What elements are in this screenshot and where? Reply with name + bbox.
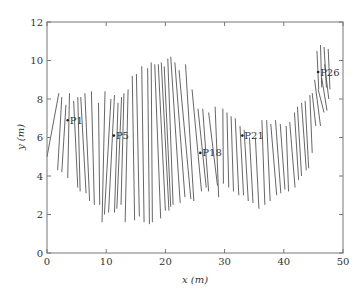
segment <box>315 80 321 126</box>
segment <box>286 126 288 191</box>
point-marker <box>113 134 116 137</box>
segment <box>310 95 312 153</box>
segment <box>148 68 150 224</box>
segment <box>231 116 233 191</box>
segment <box>132 76 134 220</box>
point-label: P18 <box>202 147 221 158</box>
segment <box>267 120 271 201</box>
plot-frame <box>47 22 343 253</box>
point-marker <box>317 71 320 74</box>
segment <box>104 99 111 215</box>
segment <box>318 89 324 112</box>
y-tick-label: 10 <box>30 55 43 66</box>
segment <box>151 62 152 222</box>
segment <box>280 124 285 189</box>
segment <box>102 91 105 222</box>
segment <box>192 89 201 191</box>
segment <box>91 91 94 205</box>
point-label: P26 <box>320 67 339 78</box>
segment <box>99 103 100 205</box>
point-marker <box>66 119 69 122</box>
point-marker <box>241 134 244 137</box>
point-label: P21 <box>244 130 263 141</box>
chart: P1P5P18P21P26 01020304050 024681012 x (m… <box>0 0 363 294</box>
segment <box>276 120 281 193</box>
y-tick-label: 0 <box>37 248 43 259</box>
segment <box>62 105 66 172</box>
point-marker <box>199 152 202 155</box>
segment <box>78 97 80 191</box>
y-tick-label: 12 <box>30 17 43 28</box>
y-tick-label: 8 <box>37 94 43 105</box>
point-label: P5 <box>116 130 129 141</box>
segment <box>136 74 139 216</box>
segment <box>109 95 115 212</box>
segment <box>179 70 191 199</box>
segment <box>223 109 224 184</box>
y-axis-label: y (m) <box>15 124 26 151</box>
x-axis-label: x (m) <box>182 274 208 285</box>
segment <box>125 89 128 222</box>
transect-segments <box>47 45 330 224</box>
x-tick-label: 10 <box>100 256 113 267</box>
x-tick-label: 0 <box>44 256 50 267</box>
y-tick-label: 6 <box>37 132 43 143</box>
segment <box>249 138 253 203</box>
segment <box>68 93 70 178</box>
x-axis: 01020304050 <box>44 22 350 267</box>
segment <box>235 118 239 195</box>
segment <box>255 138 259 209</box>
x-tick-label: 20 <box>159 256 172 267</box>
y-tick-label: 2 <box>37 209 43 220</box>
segment <box>227 112 229 187</box>
segment <box>186 64 194 201</box>
segment <box>290 122 295 187</box>
segment <box>312 93 316 126</box>
segment <box>271 124 277 195</box>
segment <box>58 97 62 170</box>
point-label: P1 <box>70 115 83 126</box>
y-tick-label: 4 <box>37 171 43 182</box>
segment <box>142 66 144 222</box>
x-tick-label: 40 <box>277 256 290 267</box>
segment <box>47 93 59 157</box>
x-tick-label: 30 <box>218 256 231 267</box>
x-tick-label: 50 <box>337 256 350 267</box>
segment <box>317 51 319 90</box>
